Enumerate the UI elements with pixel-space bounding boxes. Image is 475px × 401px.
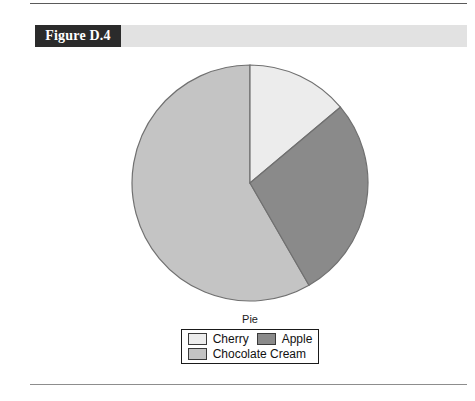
figure-banner-tab: Figure D.4 [35, 25, 121, 47]
legend-box: Cherry Apple Chocolate Cream [181, 329, 320, 364]
legend-row: Chocolate Cream [188, 348, 313, 360]
legend-row: Cherry Apple [188, 333, 313, 345]
figure-page: Figure D.4 Pie Cherry [0, 0, 475, 401]
legend-item-chocolate-cream[interactable]: Chocolate Cream [188, 348, 306, 360]
pie-chart-svg [130, 63, 370, 303]
page-bottom-rule [30, 384, 467, 385]
chart-title: Pie [242, 313, 258, 325]
figure-number-label: Figure D.4 [45, 28, 111, 44]
chart-area: Pie Cherry Apple Chocolate Cream [35, 55, 465, 375]
legend-label-chocolate-cream: Chocolate Cream [213, 348, 306, 360]
legend-block: Pie Cherry Apple Chocolate Cream [35, 313, 465, 364]
legend-swatch-apple [257, 333, 276, 345]
legend-swatch-cherry [188, 333, 207, 345]
legend-swatch-chocolate-cream [188, 348, 207, 360]
legend-label-apple: Apple [282, 333, 313, 345]
legend-item-apple[interactable]: Apple [257, 333, 313, 345]
page-top-rule [30, 3, 467, 4]
legend-label-cherry: Cherry [213, 333, 249, 345]
legend-item-cherry[interactable]: Cherry [188, 333, 249, 345]
pie-chart [130, 63, 370, 303]
